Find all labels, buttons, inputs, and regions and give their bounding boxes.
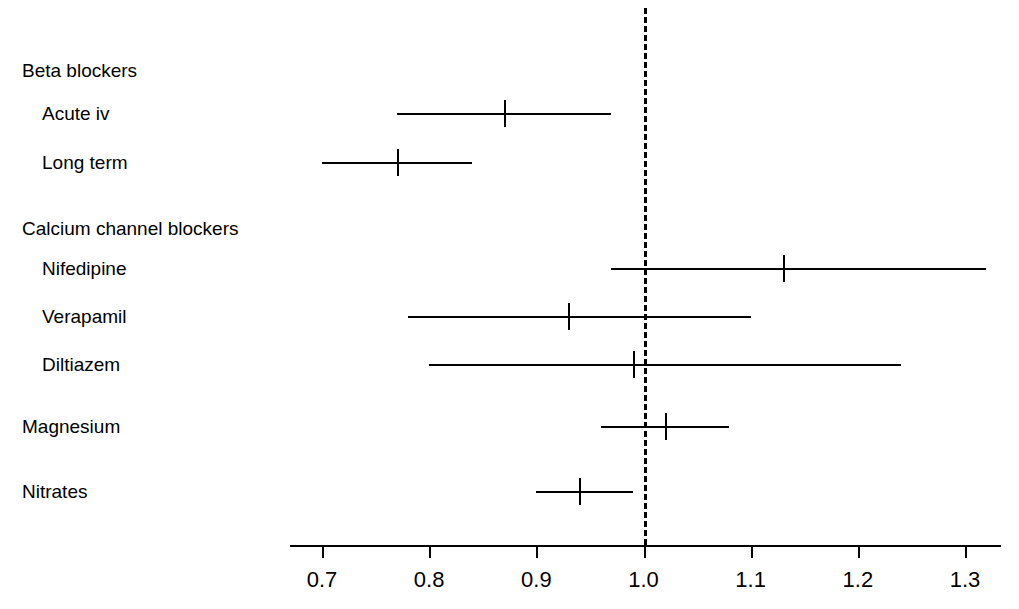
x-axis-tick-label: 1.2 bbox=[843, 569, 874, 591]
x-axis-tick-label: 0.8 bbox=[414, 569, 445, 591]
x-axis-tick bbox=[644, 545, 646, 558]
point-estimate-marker bbox=[783, 255, 785, 282]
point-estimate-marker bbox=[579, 478, 581, 505]
x-axis-tick bbox=[965, 545, 967, 558]
confidence-interval-line bbox=[611, 268, 986, 270]
x-axis-tick bbox=[429, 545, 431, 558]
point-estimate-marker bbox=[397, 149, 399, 176]
point-estimate-marker bbox=[568, 303, 570, 330]
x-axis-tick bbox=[858, 545, 860, 558]
x-axis-tick-label: 0.9 bbox=[521, 569, 552, 591]
point-estimate-marker bbox=[665, 413, 667, 440]
x-axis-tick bbox=[536, 545, 538, 558]
null-effect-reference-line bbox=[644, 8, 647, 545]
row-label: Acute iv bbox=[42, 104, 110, 123]
row-label: Nifedipine bbox=[42, 259, 127, 278]
row-label: Magnesium bbox=[22, 417, 120, 436]
row-label: Diltiazem bbox=[42, 355, 120, 374]
row-label: Long term bbox=[42, 153, 128, 172]
x-axis-tick-label: 1.1 bbox=[735, 569, 766, 591]
x-axis-tick bbox=[322, 545, 324, 558]
x-axis-tick-label: 1.3 bbox=[950, 569, 981, 591]
confidence-interval-line bbox=[429, 364, 901, 366]
confidence-interval-line bbox=[408, 316, 751, 318]
point-estimate-marker bbox=[504, 100, 506, 127]
row-label: Verapamil bbox=[42, 307, 127, 326]
confidence-interval-line bbox=[536, 491, 632, 493]
point-estimate-marker bbox=[633, 351, 635, 378]
row-label: Nitrates bbox=[22, 482, 87, 501]
x-axis-tick-label: 1.0 bbox=[628, 569, 659, 591]
x-axis-tick bbox=[751, 545, 753, 558]
group-label: Calcium channel blockers bbox=[22, 219, 239, 238]
x-axis-line bbox=[290, 545, 1001, 547]
group-label: Beta blockers bbox=[22, 61, 137, 80]
x-axis-tick-label: 0.7 bbox=[307, 569, 338, 591]
forest-plot: Beta blockersAcute ivLong termCalcium ch… bbox=[0, 0, 1019, 609]
